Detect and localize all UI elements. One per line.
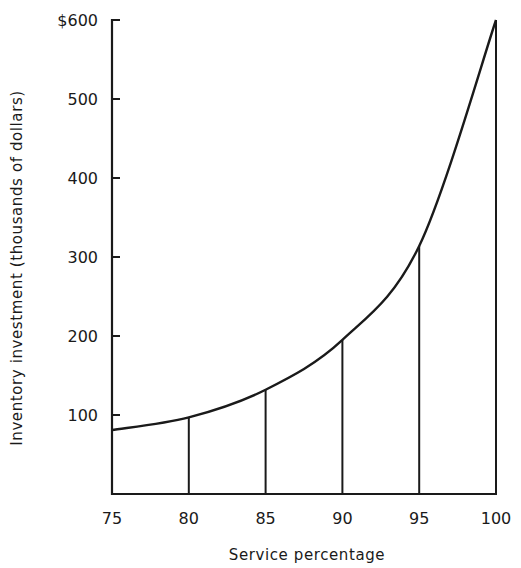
x-axis-title: Service percentage	[229, 546, 385, 564]
investment-curve	[112, 20, 496, 430]
y-tick-label-600: $600	[57, 11, 98, 30]
y-tick-label-100: 100	[67, 406, 98, 425]
x-tick-label-100: 100	[481, 509, 512, 528]
y-tick-label-300: 300	[67, 248, 98, 267]
chart: 100200300400500$600 7580859095100 Servic…	[0, 0, 521, 568]
x-axis-ticks: 7580859095100	[102, 509, 511, 528]
y-tick-label-400: 400	[67, 169, 98, 188]
y-axis-title: Inventory investment (thousands of dolla…	[8, 90, 26, 446]
axes	[111, 19, 497, 495]
chart-svg: 100200300400500$600 7580859095100 Servic…	[0, 0, 521, 568]
x-tick-label-90: 90	[332, 509, 352, 528]
x-tick-label-80: 80	[179, 509, 199, 528]
x-tick-label-75: 75	[102, 509, 122, 528]
data-curve	[112, 20, 496, 430]
y-tick-label-500: 500	[67, 90, 98, 109]
x-tick-label-85: 85	[255, 509, 275, 528]
y-axis-ticks: 100200300400500$600	[57, 11, 120, 425]
drop-lines	[189, 20, 496, 494]
y-tick-label-200: 200	[67, 327, 98, 346]
x-tick-label-95: 95	[409, 509, 429, 528]
